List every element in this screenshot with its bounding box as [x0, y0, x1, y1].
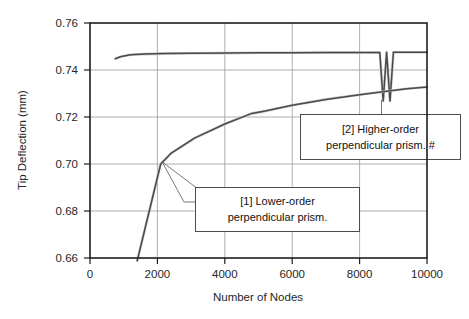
y-tick-label-3: 0.72	[56, 111, 78, 123]
x-axis-title: Number of Nodes	[213, 291, 303, 303]
x-tick-label-4: 8000	[347, 268, 373, 280]
y-tick-label-1: 0.68	[56, 205, 78, 217]
callout-1-line-1: [1] Lower-order	[240, 195, 315, 207]
callout-2-box	[301, 115, 461, 160]
y-tick-label-4: 0.74	[56, 64, 79, 76]
tip-deflection-line-chart: [1] Lower-order perpendicular prism. [2]…	[0, 0, 469, 319]
x-tick-label-2: 4000	[212, 268, 238, 280]
x-tick-label-0: 0	[87, 268, 93, 280]
x-tick-label-1: 2000	[145, 268, 171, 280]
y-axis-title: Tip Deflection (mm)	[16, 90, 28, 190]
callout-1[interactable]: [1] Lower-order perpendicular prism.	[196, 188, 360, 232]
y-tick-label-0: 0.66	[56, 252, 78, 264]
callout-2[interactable]: [2] Higher-order perpendicular prism. #	[301, 115, 461, 160]
x-tick-label-3: 6000	[279, 268, 305, 280]
chart-figure: [1] Lower-order perpendicular prism. [2]…	[0, 0, 469, 319]
callout-2-line-2: perpendicular prism. #	[326, 139, 436, 151]
callout-2-line-1: [2] Higher-order	[342, 123, 419, 135]
y-tick-label-5: 0.76	[56, 17, 78, 29]
x-tick-label-5: 10000	[411, 268, 443, 280]
y-tick-label-2: 0.70	[56, 158, 78, 170]
callout-1-line-2: perpendicular prism.	[228, 211, 328, 223]
